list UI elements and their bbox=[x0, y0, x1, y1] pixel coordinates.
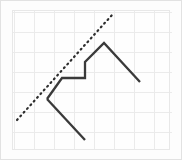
plot-area-background bbox=[12, 10, 170, 150]
chart-canvas bbox=[0, 0, 182, 160]
figure-container bbox=[0, 0, 182, 160]
